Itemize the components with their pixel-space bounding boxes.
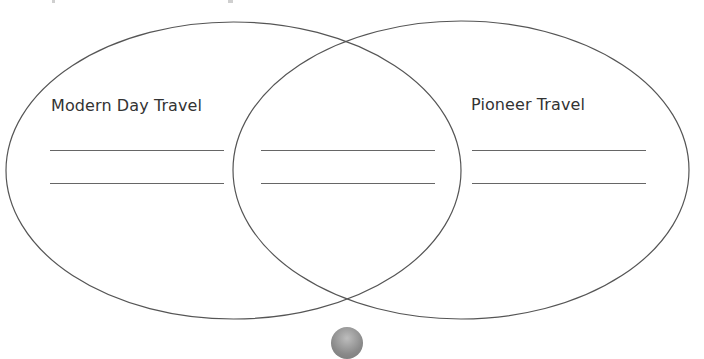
pioneer-answer-line-1[interactable] xyxy=(472,150,646,151)
pioneer-travel-label: Pioneer Travel xyxy=(471,95,585,114)
pioneer-answer-line-2[interactable] xyxy=(472,183,646,184)
page-badge xyxy=(331,327,363,359)
modern-day-answer-line-1[interactable] xyxy=(50,150,224,151)
cropped-text-fragment xyxy=(52,0,55,3)
overlap-answer-line-2[interactable] xyxy=(261,183,435,184)
cropped-text-fragment xyxy=(228,0,233,3)
modern-day-answer-line-2[interactable] xyxy=(50,183,224,184)
overlap-answer-line-1[interactable] xyxy=(261,150,435,151)
modern-day-travel-label: Modern Day Travel xyxy=(51,96,202,115)
